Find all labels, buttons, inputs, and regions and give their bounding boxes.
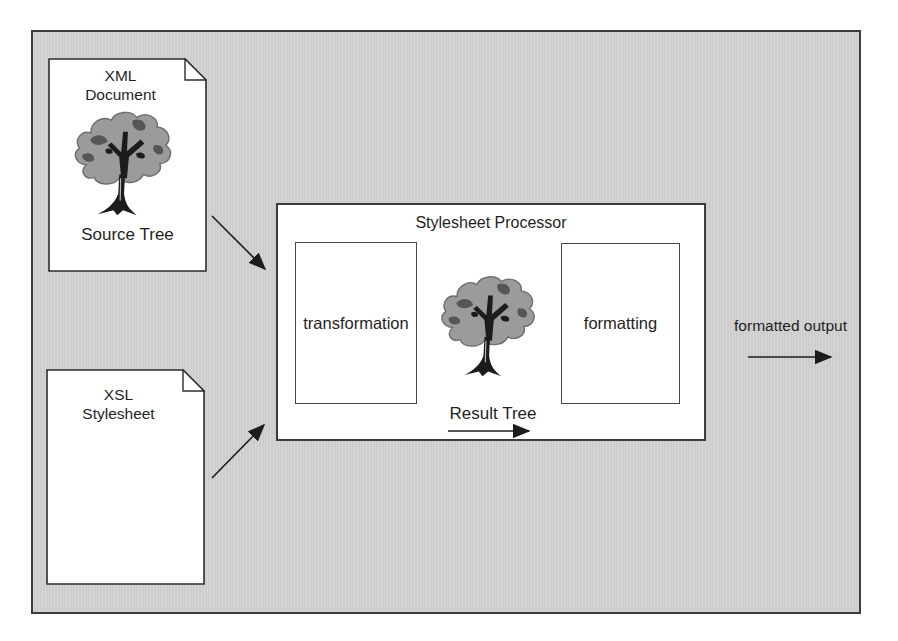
processor-title: Stylesheet Processor xyxy=(278,214,704,232)
result-tree-caption: Result Tree xyxy=(426,404,560,424)
formatting-box: formatting xyxy=(561,243,680,404)
xml-document-title-line2: Document xyxy=(48,85,193,104)
result-tree-icon xyxy=(430,267,552,381)
stylesheet-processor-box: Stylesheet Processor transformation form… xyxy=(276,203,706,441)
diagram-canvas: XML Document Source Tree XSL Stylesheet … xyxy=(0,0,898,641)
xsl-stylesheet-card: XSL Stylesheet xyxy=(46,369,205,585)
xsl-stylesheet-title-line1: XSL xyxy=(46,385,191,404)
xml-document-title-line1: XML xyxy=(48,66,193,85)
formatting-label: formatting xyxy=(584,314,657,333)
xml-document-title: XML Document xyxy=(48,66,193,104)
source-tree-caption: Source Tree xyxy=(48,225,207,245)
xml-document-card: XML Document Source Tree xyxy=(48,58,207,272)
xsl-stylesheet-title: XSL Stylesheet xyxy=(46,385,191,423)
xsl-stylesheet-title-line2: Stylesheet xyxy=(46,404,191,423)
formatted-output-label: formatted output xyxy=(718,317,863,335)
transformation-box: transformation xyxy=(295,242,417,404)
transformation-label: transformation xyxy=(303,314,408,333)
source-tree-icon xyxy=(63,106,189,220)
